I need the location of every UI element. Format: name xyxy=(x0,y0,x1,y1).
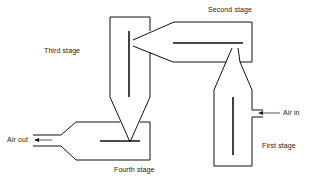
second-stage-cyclone xyxy=(133,22,252,62)
air-in-label: Air in xyxy=(283,109,300,116)
first-stage-label: First stage xyxy=(262,142,296,149)
air-in-arrow xyxy=(258,111,280,115)
air-out-arrow xyxy=(34,138,52,142)
air-out-label: Air out xyxy=(7,136,28,143)
cyclone-diagram xyxy=(0,0,312,179)
fourth-stage-label: Fourth stage xyxy=(114,166,155,173)
third-stage-label: Third stage xyxy=(44,47,80,54)
first-stage-cyclone xyxy=(214,48,263,166)
second-stage-label: Second stage xyxy=(208,6,252,13)
fourth-stage-cyclone xyxy=(33,122,150,160)
third-stage-cyclone xyxy=(110,17,150,142)
